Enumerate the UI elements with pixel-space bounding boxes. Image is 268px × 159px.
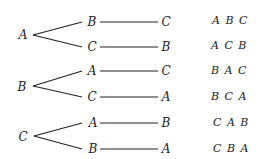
branch-node: B (88, 16, 97, 28)
permutation-result: C B A (213, 143, 249, 155)
root-node-b: B (18, 81, 27, 93)
permutation-result: B A C (211, 65, 247, 77)
branch-node: B (89, 143, 98, 155)
leaf-node: B (162, 41, 171, 53)
branch-node: C (87, 91, 96, 103)
permutation-result: A B C (212, 15, 248, 27)
leaf-node: A (162, 143, 171, 155)
permutation-result: B C A (211, 91, 247, 103)
leaf-node: C (161, 65, 170, 77)
branch-node: A (89, 117, 98, 129)
leaf-node: A (162, 91, 171, 103)
leaf-node: B (162, 117, 171, 129)
permutation-result: C A B (213, 117, 249, 129)
root-node-c: C (18, 131, 27, 143)
permutation-result: A C B (211, 40, 247, 52)
root-node-a: A (19, 29, 28, 41)
branch-node: A (88, 65, 97, 77)
leaf-node: C (161, 16, 170, 28)
branch-node: C (87, 41, 96, 53)
